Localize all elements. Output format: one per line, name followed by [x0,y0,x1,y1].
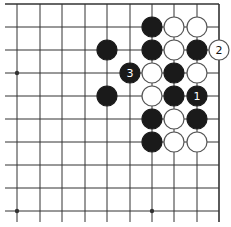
move-number: 2 [216,44,223,57]
white-stone [164,17,184,37]
white-stone [187,17,207,37]
black-stone [97,86,117,106]
black-stone [97,40,117,60]
star-point [15,71,19,75]
stones-layer: 231 [97,17,229,152]
black-stone [142,17,162,37]
black-stone [187,109,207,129]
black-stone-3: 3 [120,63,140,83]
black-stone [142,109,162,129]
board-grid [5,4,219,222]
white-stone [142,86,162,106]
white-stone-2: 2 [209,40,229,60]
white-stone [164,109,184,129]
black-stone [164,86,184,106]
star-point [150,209,154,213]
black-stone-1: 1 [187,86,207,106]
go-board: 231 [0,0,231,227]
move-number: 3 [127,67,134,80]
white-stone [164,132,184,152]
white-stone [187,63,207,83]
move-number: 1 [194,90,201,103]
white-stone [142,63,162,83]
white-stone [164,40,184,60]
white-stone [187,132,207,152]
black-stone [187,40,207,60]
black-stone [164,63,184,83]
star-point [15,209,19,213]
black-stone [142,132,162,152]
black-stone [142,40,162,60]
